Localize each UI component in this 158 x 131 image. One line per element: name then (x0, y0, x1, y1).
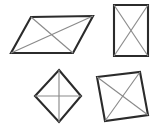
quadrilaterals-figure (0, 0, 158, 131)
shape-rectangle (114, 5, 148, 56)
figure-svg (0, 0, 158, 131)
shape-rhombus-slanted (97, 72, 148, 121)
shape-rhombus-diamond (35, 70, 81, 122)
shape-parallelogram (11, 16, 93, 53)
